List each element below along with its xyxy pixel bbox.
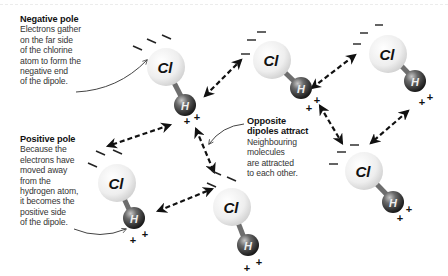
annotation-title: Positive pole: [20, 134, 130, 144]
hcl-dipole-diagram: Cl H Cl H Cl H Cl H Cl H Cl H + + + + + …: [0, 0, 448, 276]
positive-charge: +: [314, 94, 320, 106]
negative-charge: [162, 35, 171, 39]
annotation-body: Because the electrons have moved away fr…: [20, 144, 130, 227]
h-label: H: [389, 197, 398, 209]
leader-opposite-dipoles: [209, 124, 244, 144]
positive-charge: +: [194, 111, 200, 123]
negative-charge: [207, 183, 216, 187]
positive-charge: +: [184, 115, 190, 127]
arrow-m4-m5: [158, 189, 212, 211]
negative-charge: [212, 171, 221, 175]
h-label: H: [130, 213, 139, 225]
negative-charge: [147, 39, 156, 43]
positive-charge: +: [256, 256, 262, 268]
cl-label: Cl: [224, 199, 240, 216]
positive-charge: +: [427, 91, 433, 103]
negative-charge: [227, 177, 236, 181]
arrow-m1-m5: [196, 129, 214, 172]
arrow-m3-m6: [371, 111, 408, 143]
arrow-m2-m3: [312, 55, 355, 88]
positive-charge: +: [244, 262, 250, 274]
annotation-title: Negative pole: [20, 14, 130, 24]
cl-label: Cl: [158, 59, 174, 76]
positive-charge: +: [306, 102, 312, 114]
leader-positive-pole: [74, 229, 126, 235]
negative-charge: [133, 46, 142, 50]
cl-label: Cl: [264, 52, 280, 69]
h-label: H: [244, 240, 253, 252]
annotation-title-line2: dipoles attract: [247, 126, 357, 136]
positive-charge: +: [142, 228, 148, 240]
positive-charge: +: [130, 234, 136, 246]
cl-label: Cl: [356, 163, 372, 180]
annotation-body: Electrons gather on the far side of the …: [20, 24, 130, 86]
arrow-m1-m2: [205, 60, 241, 96]
positive-charge: +: [419, 96, 425, 108]
annotation-body: Neighbouring molecules are attracted to …: [247, 137, 357, 179]
annotation-positive-pole: Positive pole Because the electrons have…: [20, 134, 130, 228]
positive-charge: +: [397, 212, 403, 224]
h-label: H: [181, 100, 190, 112]
annotation-negative-pole: Negative pole Electrons gather on the fa…: [20, 14, 130, 87]
positive-charge: +: [406, 203, 412, 215]
h-label: H: [297, 83, 306, 95]
annotation-title-line1: Opposite: [247, 116, 357, 126]
h-label: H: [411, 76, 420, 88]
cl-label: Cl: [380, 46, 396, 63]
annotation-opposite-dipoles: Opposite dipoles attract Neighbouring mo…: [247, 116, 357, 178]
